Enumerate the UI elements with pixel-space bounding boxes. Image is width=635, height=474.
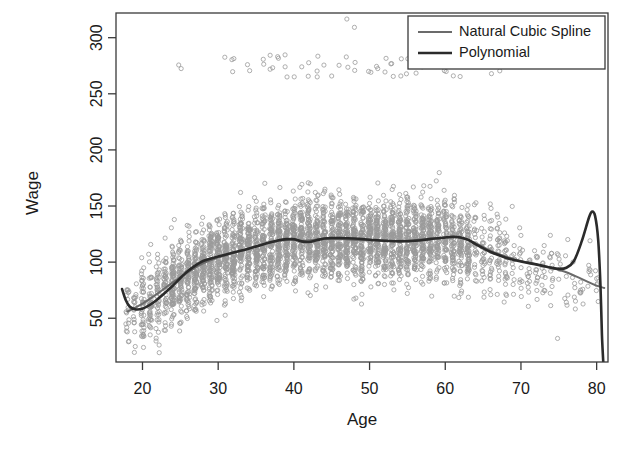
y-tick-label: 150 [88,193,105,220]
chart-canvas: 20304050607080 50100150200250300 Age Wag… [0,0,635,474]
chart-legend: Natural Cubic Spline Polynomial [408,16,605,69]
x-tick-label: 30 [209,380,227,397]
y-tick-label: 200 [88,136,105,163]
wage-vs-age-figure: 20304050607080 50100150200250300 Age Wag… [0,0,635,474]
x-tick-label: 60 [436,380,454,397]
x-tick-label: 20 [134,380,152,397]
x-tick-label: 50 [361,380,379,397]
y-tick-label: 50 [88,309,105,327]
x-tick-label: 40 [285,380,303,397]
y-tick-label: 300 [88,24,105,51]
y-tick-label: 100 [88,249,105,276]
y-axis-title: Wage [23,171,42,215]
legend-label-polynomial: Polynomial [459,44,530,60]
y-tick-label: 250 [88,80,105,107]
x-tick-label: 80 [588,380,606,397]
legend-label-natural-cubic-spline: Natural Cubic Spline [459,23,591,39]
x-tick-label: 70 [512,380,530,397]
x-axis-title: Age [347,410,377,429]
